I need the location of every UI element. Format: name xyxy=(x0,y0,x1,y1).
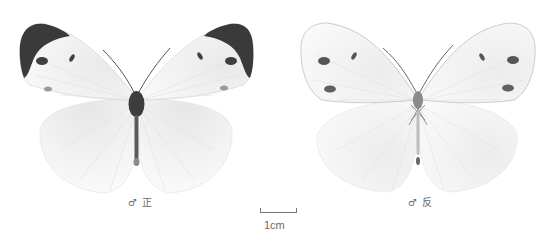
caption-ventral: ♂ 反 xyxy=(408,194,433,209)
view-label: 反 xyxy=(422,197,433,208)
sex-symbol-male: ♂ xyxy=(408,197,418,208)
view-label: 正 xyxy=(142,197,153,208)
sex-symbol-male: ♂ xyxy=(128,197,138,208)
scale-bar xyxy=(260,208,297,213)
caption-dorsal: ♂ 正 xyxy=(128,194,153,209)
scale-bar-label: 1cm xyxy=(264,219,285,231)
